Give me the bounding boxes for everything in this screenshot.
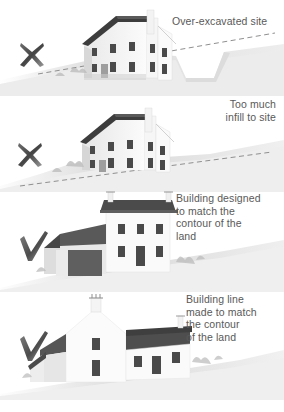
house-long-low-following-slope [28, 294, 192, 382]
incorrect-cross-mark [15, 140, 45, 174]
house-stepped-to-contour [44, 192, 178, 276]
house-door [152, 356, 161, 374]
caption-building-line: Building line made to match the contour … [186, 293, 282, 343]
correct-tick-mark [18, 230, 50, 268]
house-over-excavated [82, 10, 176, 80]
incorrect-cross-mark [17, 40, 47, 74]
bottom-partial-text [14, 401, 244, 410]
house-on-infill [80, 108, 174, 172]
caption-too-much-infill: Too much infill to site [176, 98, 276, 123]
house-door [99, 160, 106, 172]
correct-tick-mark [18, 330, 50, 368]
house-door [136, 246, 145, 266]
caption-over-excavated-site: Over-excavated site [172, 15, 284, 28]
garage-door [68, 250, 102, 276]
building-siting-figure: Over-excavated site Too much infill to s… [0, 0, 284, 412]
caption-building-designed: Building designed to match the contour o… [176, 192, 284, 242]
